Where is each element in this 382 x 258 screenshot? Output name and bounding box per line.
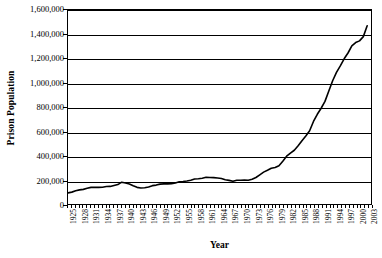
x-axis-tick [326,205,327,208]
x-axis-tick-label: 1967 [232,209,240,224]
x-axis-tick [79,205,80,208]
x-axis-tick [357,205,358,208]
x-axis-tick [113,205,114,208]
x-axis-tick [109,205,110,208]
x-axis-tick-label: 2000 [360,209,368,224]
x-axis-tick [129,205,130,208]
x-axis-tick-label: 1961 [209,209,217,224]
x-axis-tick-label: 2003 [371,209,379,224]
x-axis-tick [314,205,315,208]
x-axis-tick [345,205,346,208]
x-axis-tick [71,205,72,208]
x-axis-tick [233,205,234,208]
x-axis-tick [353,205,354,208]
x-axis-tick-label: 1979 [279,209,287,224]
x-axis-tick [299,205,300,208]
x-axis-tick [125,205,126,208]
x-axis-tick [245,205,246,208]
x-axis-tick [237,205,238,208]
y-axis-tick-label: 1,600,000 [30,5,64,14]
x-axis-tick-label: 1940 [128,209,136,224]
x-axis-tick-label: 1991 [325,209,333,224]
x-axis-tick-labels: 1925192819311934193719401943194619491952… [67,209,372,239]
x-axis-tick [210,205,211,208]
x-axis-tick [303,205,304,208]
y-axis-tick-label: 1,000,000 [30,78,64,87]
x-axis-tick [295,205,296,208]
x-axis-title: Year [67,240,372,250]
x-axis-tick [318,205,319,208]
x-axis-tick [241,205,242,208]
x-axis-tick-label: 1943 [140,209,148,224]
x-axis-tick [330,205,331,208]
x-axis-tick [160,205,161,208]
x-axis-tick [171,205,172,208]
x-axis-tick-label: 1925 [70,209,78,224]
x-axis-tick [272,205,273,208]
data-line-svg [68,10,371,204]
x-axis-tick [225,205,226,208]
x-axis-tick [179,205,180,208]
x-axis-tick [198,205,199,208]
x-axis-tick [194,205,195,208]
x-axis-tick [156,205,157,208]
x-axis-tick [218,205,219,208]
x-axis-tick [144,205,145,208]
x-axis-tick [341,205,342,208]
x-axis-tick-label: 1970 [244,209,252,224]
x-axis-tick [136,205,137,208]
x-axis-tick-label: 1952 [174,209,182,224]
x-axis-tick [364,205,365,208]
x-axis-tick [86,205,87,208]
x-axis-tick [306,205,307,208]
x-axis-tick [264,205,265,208]
x-axis-tick-label: 1994 [337,209,345,224]
x-axis-tick-label: 1931 [93,209,101,224]
x-axis-tick-label: 1934 [105,209,113,224]
x-axis-tick [291,205,292,208]
y-axis-tick-label: 1,200,000 [30,54,64,63]
x-axis-tick [175,205,176,208]
x-axis-tick [283,205,284,208]
x-axis-tick [310,205,311,208]
x-axis-tick [106,205,107,208]
x-axis-tick [260,205,261,208]
y-axis-tick-label: 400,000 [36,152,64,161]
x-axis-tick [256,205,257,208]
x-axis-tick [372,205,373,208]
x-axis-tick-label: 1946 [151,209,159,224]
x-axis-tick-label: 1928 [82,209,90,224]
plot-area [67,9,372,205]
x-axis-tick [349,205,350,208]
x-axis-tick [67,205,68,208]
x-axis-tick [121,205,122,208]
x-axis-tick [140,205,141,208]
x-axis-tick [117,205,118,208]
x-axis-tick [191,205,192,208]
x-axis-tick [187,205,188,208]
x-axis-tick-label: 1937 [117,209,125,224]
y-axis-tick-label: 200,000 [36,176,64,185]
x-axis-tick-label: 1973 [256,209,264,224]
x-axis-tick [206,205,207,208]
x-axis-tick [90,205,91,208]
x-axis-tick [279,205,280,208]
x-axis-tick [183,205,184,208]
x-axis-tick [98,205,99,208]
y-axis-tick-labels: 0200,000400,000600,000800,0001,000,0001,… [14,0,66,215]
y-axis-tick-label: 1,400,000 [30,29,64,38]
x-axis-tick [94,205,95,208]
x-axis-tick-label: 1955 [186,209,194,224]
x-axis-tick [102,205,103,208]
x-axis-tick [82,205,83,208]
x-axis-tick [133,205,134,208]
x-axis-tick [214,205,215,208]
x-axis-tick-label: 1985 [302,209,310,224]
x-axis-tick-label: 1949 [163,209,171,224]
y-axis-tick-label: 600,000 [36,127,64,136]
x-axis-tick-label: 1997 [348,209,356,224]
x-axis-tick [268,205,269,208]
x-axis-tick [360,205,361,208]
x-axis-tick [164,205,165,208]
x-axis-tick [368,205,369,208]
